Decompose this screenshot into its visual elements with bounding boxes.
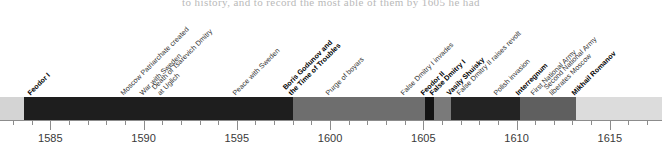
axis-tick-major (144, 120, 145, 130)
axis-tick-minor (162, 120, 163, 125)
timeline-segment (434, 97, 451, 120)
axis-tick-minor (274, 120, 275, 125)
timeline-figure: to history, and to record the most able … (0, 0, 662, 156)
label-line-1: Feodor I (26, 71, 52, 97)
axis-tick-minor (461, 120, 462, 125)
timeline-bar (0, 97, 662, 120)
axis-tick-minor (405, 120, 406, 125)
axis-tick-label: 1615 (598, 132, 622, 144)
axis-tick-label: 1595 (225, 132, 249, 144)
axis-tick-minor (498, 120, 499, 125)
axis-tick-minor (200, 120, 201, 125)
label-line-1: Purge of boyars (324, 55, 366, 97)
axis-tick-label: 1610 (504, 132, 528, 144)
timeline-reign-label: Feodor I (26, 71, 52, 97)
timeline-segment (520, 97, 576, 120)
axis-tick-minor (125, 120, 126, 125)
axis-tick-minor (311, 120, 312, 125)
axis-tick-minor (69, 120, 70, 125)
axis-tick-label: 1585 (38, 132, 62, 144)
axis-tick-major (517, 120, 518, 130)
axis-tick-minor (181, 120, 182, 125)
axis-tick-major (237, 120, 238, 130)
axis-tick-major (50, 120, 51, 130)
axis-tick-minor (88, 120, 89, 125)
timeline-segment (425, 97, 434, 120)
axis-tick-major (423, 120, 424, 130)
timeline-segment (576, 97, 662, 120)
timeline-axis: 1585159015951600160516101615 (0, 120, 662, 156)
timeline-segment (451, 97, 520, 120)
axis-tick-label: 1590 (131, 132, 155, 144)
axis-tick-minor (106, 120, 107, 125)
axis-tick-minor (647, 120, 648, 125)
axis-tick-minor (367, 120, 368, 125)
label-line-1: Boris Godunov and (281, 38, 334, 91)
axis-tick-major (610, 120, 611, 130)
axis-tick-minor (442, 120, 443, 125)
axis-tick-minor (572, 120, 573, 125)
axis-tick-minor (554, 120, 555, 125)
timeline-segment (0, 97, 24, 120)
axis-tick-major (330, 120, 331, 130)
axis-tick-minor (218, 120, 219, 125)
timeline-segment (293, 97, 425, 120)
axis-tick-minor (255, 120, 256, 125)
timeline-event-label: Peace with Sweden (231, 47, 281, 97)
axis-tick-minor (628, 120, 629, 125)
timeline-event-label: Purge of boyars (324, 55, 366, 97)
timeline-labels: Feodor IMoscow Patriarchate createdWar w… (0, 0, 662, 97)
axis-tick-minor (479, 120, 480, 125)
axis-tick-label: 1605 (411, 132, 435, 144)
axis-tick-minor (386, 120, 387, 125)
axis-tick-minor (535, 120, 536, 125)
timeline-segment (24, 97, 293, 120)
label-line-1: Peace with Sweden (231, 47, 281, 97)
axis-tick-minor (13, 120, 14, 125)
axis-tick-minor (591, 120, 592, 125)
axis-tick-minor (293, 120, 294, 125)
axis-tick-label: 1600 (318, 132, 342, 144)
axis-tick-minor (32, 120, 33, 125)
axis-tick-minor (349, 120, 350, 125)
timeline-event-label: Death of Tsarevich Dmitryat Uglich (151, 27, 221, 97)
